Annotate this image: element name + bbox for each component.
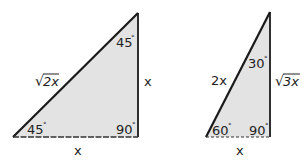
hypotenuse-text: 2x <box>43 74 59 89</box>
degree-symbol: ° <box>132 121 136 129</box>
special-right-triangles-diagram: 45 ° 45 ° 90 ° √ 2x x x 30 ° 60 ° 90 ° 2… <box>0 0 307 166</box>
base-label: x <box>236 143 244 158</box>
vertical-leg-label: x <box>144 74 152 89</box>
angle-bottom-left-label: 45 <box>27 122 44 137</box>
degree-symbol: ° <box>265 122 269 130</box>
vertical-leg-text: 3x <box>283 74 299 89</box>
hypotenuse-label: 2x <box>211 73 227 88</box>
triangle-45-45-90: 45 ° 45 ° 90 ° √ 2x x x <box>13 13 152 158</box>
triangle-30-60-90: 30 ° 60 ° 90 ° 2x √ 3x x <box>206 12 300 158</box>
degree-symbol: ° <box>131 34 135 42</box>
degree-symbol: ° <box>228 122 232 130</box>
angle-bottom-left-label: 60 <box>212 123 229 138</box>
angle-top-label: 30 <box>248 56 265 71</box>
angle-right-label: 90 <box>249 123 266 138</box>
vertical-leg-label: √ 3x <box>275 73 300 89</box>
base-label: x <box>74 143 82 158</box>
hypotenuse-label: √ 2x <box>35 73 59 89</box>
degree-symbol: ° <box>43 121 47 129</box>
degree-symbol: ° <box>264 55 268 63</box>
angle-right-label: 90 <box>116 122 133 137</box>
